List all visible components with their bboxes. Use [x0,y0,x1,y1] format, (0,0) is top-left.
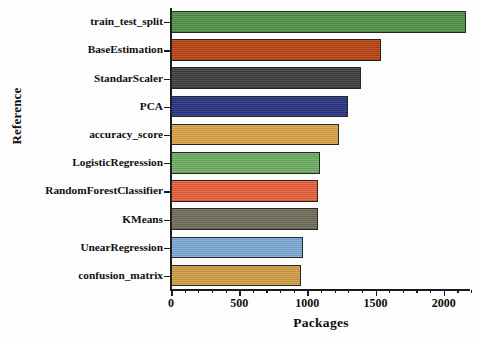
bar [171,96,348,118]
bar [171,11,466,33]
x-minor-tick-mark [335,290,336,293]
y-tick-label: train_test_split [0,15,163,27]
y-tick-label: confusion_matrix [0,269,163,281]
x-minor-tick-mark [457,290,458,293]
x-tick-label: 2000 [414,296,474,311]
bar [171,152,320,174]
x-minor-tick-mark [389,290,390,293]
y-tick-mark [164,50,170,51]
bar-row [171,177,471,205]
x-minor-tick-mark [280,290,281,293]
x-minor-tick-mark [403,290,404,293]
y-tick-mark [164,22,170,23]
x-minor-tick-mark [294,290,295,293]
bar [171,208,318,230]
x-minor-tick-mark [185,290,186,293]
bar-row [171,93,471,121]
y-tick-label: accuracy_score [0,128,163,140]
x-minor-tick-mark [348,290,349,293]
bar [171,67,361,89]
bar [171,265,301,287]
y-tick-mark [164,79,170,80]
x-minor-tick-mark [226,290,227,293]
x-minor-tick-mark [253,290,254,293]
bar-row [171,262,471,290]
x-minor-tick-mark [430,290,431,293]
bar-chart: Reference Packages train_test_splitBaseE… [0,0,480,344]
y-tick-label: PCA [0,100,163,112]
bar [171,39,381,61]
bar-row [171,149,471,177]
x-tick-label: 1000 [277,296,337,311]
y-tick-label: UnearRegression [0,241,163,253]
y-tick-mark [164,248,170,249]
bar-row [171,234,471,262]
y-tick-mark [164,107,170,108]
y-tick-label: BaseEstimation [0,43,163,55]
x-minor-tick-mark [266,290,267,293]
y-tick-label: LogisticRegression [0,156,163,168]
x-tick-label: 1500 [346,296,406,311]
y-tick-mark [164,276,170,277]
x-minor-tick-mark [416,290,417,293]
y-tick-label: StandarScaler [0,72,163,84]
plot-area [171,8,471,290]
bar-row [171,121,471,149]
bar [171,237,303,259]
bar-row [171,64,471,92]
bar [171,124,339,146]
y-tick-label: KMeans [0,213,163,225]
y-tick-mark [164,191,170,192]
x-minor-tick-mark [471,290,472,293]
bar-row [171,205,471,233]
x-minor-tick-mark [198,290,199,293]
bar-row [171,36,471,64]
x-minor-tick-mark [212,290,213,293]
y-tick-mark [164,135,170,136]
bar-row [171,8,471,36]
x-minor-tick-mark [362,290,363,293]
x-minor-tick-mark [321,290,322,293]
y-tick-mark [164,220,170,221]
x-axis-title: Packages [171,315,471,331]
bar [171,180,318,202]
x-tick-label: 0 [141,296,201,311]
y-tick-label: RandomForestClassifier [0,184,163,196]
x-tick-label: 500 [209,296,269,311]
y-tick-mark [164,163,170,164]
